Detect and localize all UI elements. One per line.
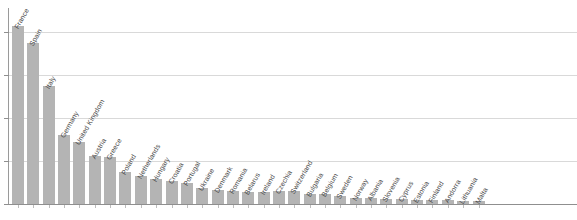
x-tick: [110, 205, 111, 208]
x-tick: [125, 205, 126, 208]
bar[interactable]: [27, 43, 39, 204]
x-tick: [187, 205, 188, 208]
x-tick: [172, 205, 173, 208]
bar[interactable]: [73, 142, 85, 204]
x-tick: [248, 205, 249, 208]
y-tick-0: [4, 204, 9, 205]
y-tick-60: [4, 75, 9, 76]
plot-area: FranceSpainItalyGermanyUnited KingdomAus…: [0, 0, 577, 220]
category-label: Malta: [473, 186, 488, 205]
x-tick: [463, 205, 464, 208]
bar[interactable]: [89, 156, 101, 204]
x-tick: [33, 205, 34, 208]
bar[interactable]: [166, 181, 178, 204]
gridline-60: [9, 75, 577, 76]
x-tick: [218, 205, 219, 208]
x-tick: [310, 205, 311, 208]
x-tick: [386, 205, 387, 208]
bar[interactable]: [119, 172, 131, 204]
x-tick: [279, 205, 280, 208]
x-tick: [18, 205, 19, 208]
bar[interactable]: [104, 157, 116, 204]
y-tick-20: [4, 161, 9, 162]
y-tick-40: [4, 118, 9, 119]
x-tick: [95, 205, 96, 208]
y-axis-line: [8, 8, 9, 205]
x-tick: [294, 205, 295, 208]
x-tick: [448, 205, 449, 208]
x-tick: [141, 205, 142, 208]
bar[interactable]: [12, 26, 24, 204]
x-tick: [402, 205, 403, 208]
x-tick: [356, 205, 357, 208]
x-tick: [325, 205, 326, 208]
x-tick: [49, 205, 50, 208]
x-tick: [371, 205, 372, 208]
bar-chart: FranceSpainItalyGermanyUnited KingdomAus…: [0, 0, 577, 220]
x-tick: [233, 205, 234, 208]
x-tick: [202, 205, 203, 208]
bar[interactable]: [58, 135, 70, 204]
gridline-80: [9, 32, 577, 33]
x-tick: [79, 205, 80, 208]
x-axis-line: [8, 204, 577, 205]
x-tick: [156, 205, 157, 208]
x-tick: [264, 205, 265, 208]
bar[interactable]: [135, 176, 147, 204]
x-tick: [417, 205, 418, 208]
x-tick: [64, 205, 65, 208]
x-tick: [479, 205, 480, 208]
x-tick: [340, 205, 341, 208]
bar[interactable]: [43, 86, 55, 204]
x-tick: [432, 205, 433, 208]
y-tick-80: [4, 32, 9, 33]
